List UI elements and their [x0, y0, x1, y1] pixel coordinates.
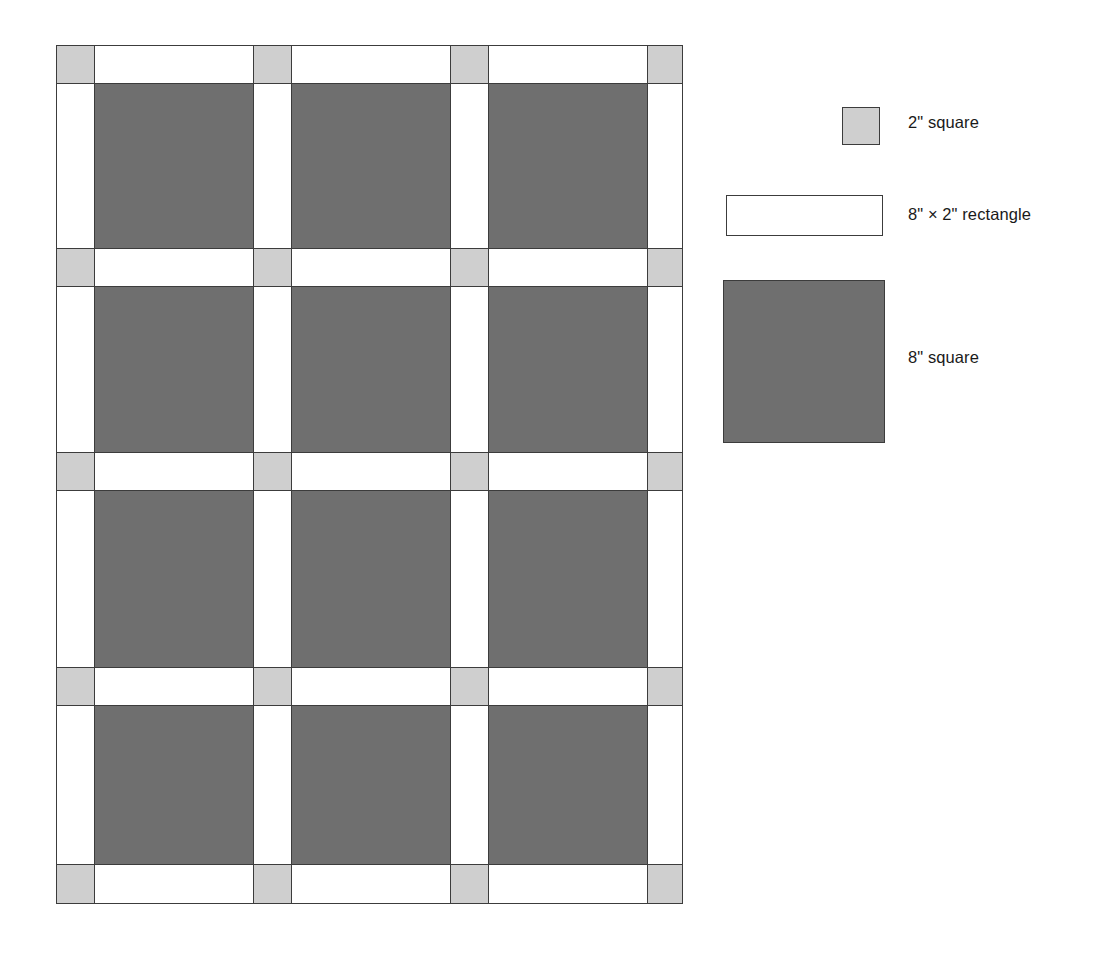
cell-small-square — [450, 452, 489, 491]
cell-small-square — [253, 667, 292, 706]
cell-small-square — [56, 45, 95, 84]
cell-sashing-rectangle — [56, 83, 95, 249]
cell-sashing-rectangle — [56, 705, 95, 865]
cell-sashing-rectangle — [291, 864, 451, 904]
cell-sashing-rectangle — [450, 83, 489, 249]
cell-small-square — [450, 248, 489, 287]
cell-sashing-rectangle — [253, 286, 292, 453]
cell-big-square — [94, 286, 254, 453]
cell-sashing-rectangle — [94, 667, 254, 706]
cell-small-square — [56, 248, 95, 287]
cell-big-square — [488, 286, 648, 453]
cell-small-square — [647, 248, 683, 287]
cell-sashing-rectangle — [647, 705, 683, 865]
cell-sashing-rectangle — [253, 83, 292, 249]
cell-big-square — [291, 490, 451, 668]
legend: 2" square 8" × 2" rectangle 8" square — [720, 95, 1100, 475]
cell-sashing-rectangle — [253, 705, 292, 865]
cell-sashing-rectangle — [488, 248, 648, 287]
cell-small-square — [450, 667, 489, 706]
cell-sashing-rectangle — [56, 286, 95, 453]
cell-big-square — [94, 490, 254, 668]
cell-sashing-rectangle — [450, 705, 489, 865]
cell-sashing-rectangle — [488, 667, 648, 706]
cell-sashing-rectangle — [253, 490, 292, 668]
cell-sashing-rectangle — [94, 864, 254, 904]
cell-big-square — [488, 83, 648, 249]
cell-sashing-rectangle — [94, 45, 254, 84]
cell-small-square — [647, 452, 683, 491]
cell-small-square — [647, 667, 683, 706]
cell-big-square — [291, 705, 451, 865]
cell-small-square — [253, 864, 292, 904]
legend-label-rectangle: 8" × 2" rectangle — [908, 205, 1031, 224]
legend-item-big-square: 8" square — [720, 280, 1100, 450]
cell-sashing-rectangle — [450, 286, 489, 453]
legend-item-small-square: 2" square — [720, 95, 1100, 155]
cell-small-square — [450, 45, 489, 84]
cell-big-square — [488, 490, 648, 668]
cell-small-square — [56, 452, 95, 491]
legend-swatch-small-square — [842, 107, 880, 145]
cell-small-square — [647, 45, 683, 84]
cell-sashing-rectangle — [94, 248, 254, 287]
legend-label-big-square: 8" square — [908, 348, 979, 367]
cell-sashing-rectangle — [291, 248, 451, 287]
cell-small-square — [253, 248, 292, 287]
cell-big-square — [94, 83, 254, 249]
cell-sashing-rectangle — [647, 490, 683, 668]
cell-sashing-rectangle — [488, 864, 648, 904]
cell-small-square — [450, 864, 489, 904]
cell-big-square — [94, 705, 254, 865]
cell-small-square — [253, 452, 292, 491]
cell-sashing-rectangle — [291, 452, 451, 491]
legend-item-rectangle: 8" × 2" rectangle — [720, 185, 1100, 245]
cell-small-square — [647, 864, 683, 904]
cell-sashing-rectangle — [94, 452, 254, 491]
legend-swatch-big-square — [723, 280, 885, 443]
cell-sashing-rectangle — [291, 45, 451, 84]
cell-small-square — [56, 864, 95, 904]
legend-label-small-square: 2" square — [908, 113, 979, 132]
cell-sashing-rectangle — [488, 452, 648, 491]
cell-sashing-rectangle — [647, 83, 683, 249]
cell-sashing-rectangle — [450, 490, 489, 668]
cell-small-square — [253, 45, 292, 84]
cell-sashing-rectangle — [647, 286, 683, 453]
cell-sashing-rectangle — [488, 45, 648, 84]
quilt-diagram — [56, 45, 682, 903]
cell-small-square — [56, 667, 95, 706]
cell-big-square — [291, 83, 451, 249]
cell-sashing-rectangle — [291, 667, 451, 706]
cell-sashing-rectangle — [56, 490, 95, 668]
cell-big-square — [291, 286, 451, 453]
cell-big-square — [488, 705, 648, 865]
legend-swatch-rectangle — [726, 195, 883, 236]
